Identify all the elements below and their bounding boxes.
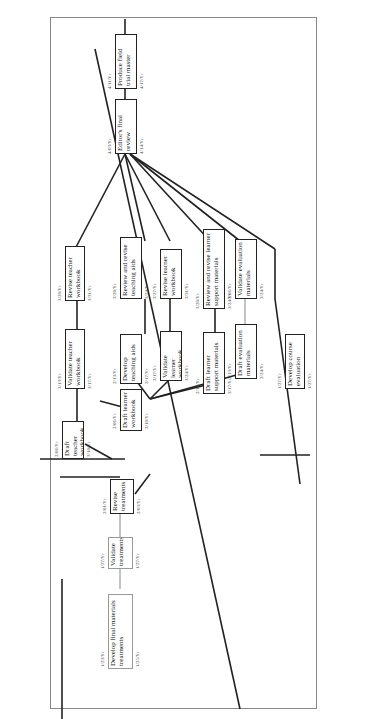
date-start: 2/13/Yr (195, 378, 200, 394)
date-start: 2/13/Yr (112, 368, 117, 384)
node-develop-course-evaluation: Develop course evaluation (285, 334, 305, 389)
date-end: 3/24/Yr (144, 283, 149, 299)
date-start: 2/06/Yr (54, 441, 59, 457)
date-end: 3/17/Yr (144, 368, 149, 384)
node-revise-learner-workbook: Revise learner workbook (160, 249, 182, 299)
date-end: 1/25/Yr (135, 651, 140, 667)
connector-lines (0, 0, 372, 719)
node-review-revise-teaching-aids: Review and revise teaching aids (120, 237, 142, 299)
date-end: 3/10/Yr (86, 441, 91, 457)
date-start: 3/06/Yr (227, 283, 232, 299)
node-validate-teacher-workbook: Validate teacher workbook (65, 329, 85, 389)
date-start: 3/20/Yr (57, 285, 62, 301)
date-start: 4/03/Yr (107, 138, 112, 154)
date-start: 3/27/Yr (152, 283, 157, 299)
date-start: 2/06/Yr (112, 413, 117, 429)
date-end: 4/17/Yr (139, 73, 144, 89)
date-end: 3/24/Yr (184, 365, 189, 381)
node-validate-treatments: Validate treatments (108, 537, 133, 569)
date-end: 3/17/Yr (227, 378, 232, 394)
node-validate-evaluation-materials: Validate evaluation materials (235, 239, 257, 299)
date-start: 1/27/Yr (277, 373, 282, 389)
date-end: 2/03/Yr (136, 498, 141, 514)
date-start: 2/01/Yr (102, 498, 107, 514)
node-review-learner-support: Review and revise learner support materi… (203, 229, 225, 309)
node-revise-teacher-workbook: Revise teacher workbook (65, 246, 85, 301)
date-end: 4/14/Yr (139, 138, 144, 154)
date-end: 3/17/Yr (87, 373, 92, 389)
date-end: 1/27/Yr (307, 373, 312, 389)
node-revise-treatments: Revise treatments (110, 479, 134, 514)
node-validate-learner-workbook: Validate learner workbook (160, 331, 182, 381)
date-end: 1/27/Yr (135, 553, 140, 569)
date-end: 3/31/Yr (184, 283, 189, 299)
node-editors-final-review: Editor's final review (115, 99, 137, 154)
date-start: 1/23/Yr (100, 651, 105, 667)
node-draft-teacher-workbook: Draft teacher workbook (62, 421, 84, 459)
date-start: 4/11/Yr (107, 74, 112, 89)
date-end: 3/31/Yr (87, 285, 92, 301)
date-start: 3/20/Yr (112, 283, 117, 299)
date-start: 3/17/Yr (152, 365, 157, 381)
date-end: 3/24/Yr (259, 283, 264, 299)
diagram-page: Develop final materials treatments 1/23/… (0, 0, 372, 719)
node-draft-evaluation-materials: Draft evaluation materials (235, 324, 257, 379)
date-end: 3/10/Yr (144, 413, 149, 429)
node-produce-field-trial-master: Produce field trial master (115, 34, 137, 89)
date-end: 2/24/Yr (259, 363, 264, 379)
date-start: 3/20/Yr (195, 293, 200, 309)
date-start: 2/13/Yr (227, 363, 232, 379)
date-start: 3/13/Yr (57, 373, 62, 389)
node-develop-final-treatments: Develop final materials treatments (108, 594, 133, 669)
node-draft-learner-workbook: Draft learner workbook (120, 389, 142, 431)
node-draft-learner-support: Draft learner support materials (203, 332, 225, 394)
date-start: 1/27/Yr (100, 553, 105, 569)
node-develop-teaching-aids: Develop teaching aids (120, 334, 142, 384)
